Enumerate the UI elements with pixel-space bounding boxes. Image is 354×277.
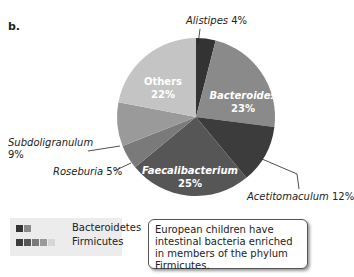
others-label: Others — [144, 76, 182, 87]
bacteroides-label: Bacteroides — [210, 90, 277, 101]
legend: Bacteroidetes Firmicutes — [10, 218, 122, 256]
subdoligranulum-pct: 9% — [8, 149, 24, 160]
legend-swatches-firmicutes — [16, 236, 56, 248]
faecalibacterium-label: Faecalibacterium — [142, 165, 238, 176]
alistipes-label: Alistipes 4% — [186, 15, 247, 26]
roseburia-label: Roseburia 5% — [53, 166, 122, 177]
callout-box: European children have intestinal bacter… — [148, 219, 308, 269]
others-pct: 22% — [151, 89, 175, 100]
leader-line-acetitomaculum — [262, 159, 299, 189]
legend-bacteroidetes: Bacteroidetes — [72, 222, 141, 233]
legend-swatches-bacteroidetes — [16, 222, 32, 234]
acetitomaculum-label: Acetitomaculum 12% — [247, 191, 354, 202]
bacteroides-pct: 23% — [231, 103, 255, 114]
legend-firmicutes: Firmicutes — [72, 236, 123, 247]
subdoligranulum-label: Subdoligranulum — [8, 137, 93, 148]
faecalibacterium-pct: 25% — [178, 178, 202, 189]
